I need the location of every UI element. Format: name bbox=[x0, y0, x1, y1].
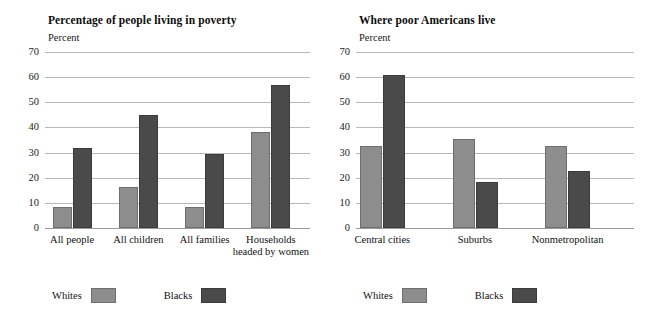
page-title: Percentage of people living in poverty bbox=[48, 14, 237, 26]
y-axis-tick-label: 0 bbox=[15, 223, 39, 234]
y-axis-tick-label: 30 bbox=[15, 148, 39, 159]
y-axis-tick-label: 10 bbox=[326, 198, 350, 209]
bar-whites-0 bbox=[53, 207, 72, 228]
bar-whites-0 bbox=[360, 146, 382, 228]
legend-label-blacks-2: Blacks bbox=[475, 290, 504, 301]
bar-whites-2 bbox=[545, 146, 567, 228]
y-axis-tick-label: 40 bbox=[15, 122, 39, 133]
y-axis-unit-label: Percent bbox=[48, 32, 80, 43]
x-axis-tick-label: Nonmetropolitan bbox=[507, 234, 628, 246]
legend-swatch-whites-icon bbox=[91, 288, 116, 303]
y-axis-unit-label-2: Percent bbox=[359, 32, 391, 43]
legend-item-whites-2: Whites bbox=[363, 288, 427, 303]
y-axis-tick-label: 20 bbox=[15, 173, 39, 184]
bar-whites-1 bbox=[119, 187, 138, 228]
legend-item-blacks-2: Blacks bbox=[475, 288, 538, 303]
bar-whites-1 bbox=[453, 139, 475, 228]
legend-poverty: Whites Blacks bbox=[52, 288, 226, 303]
y-axis-tick-label: 20 bbox=[326, 173, 350, 184]
y-axis-tick-label: 60 bbox=[326, 72, 350, 83]
y-axis-tick-label: 70 bbox=[15, 47, 39, 58]
y-axis-tick-label: 40 bbox=[326, 122, 350, 133]
bar-whites-2 bbox=[185, 207, 204, 228]
gridline bbox=[45, 77, 310, 78]
y-axis-tick-label: 0 bbox=[326, 223, 350, 234]
legend-label-whites-2: Whites bbox=[363, 290, 393, 301]
bar-blacks-3 bbox=[271, 85, 290, 228]
y-axis-tick-label: 50 bbox=[326, 97, 350, 108]
legend-swatch-blacks-icon bbox=[201, 288, 226, 303]
plot-area-where-poor-live: 706050403020100Central citiesSuburbsNonm… bbox=[356, 52, 634, 228]
gridline bbox=[356, 52, 634, 53]
y-axis-tick-label: 60 bbox=[15, 72, 39, 83]
y-axis-tick-label: 30 bbox=[326, 148, 350, 159]
bar-whites-3 bbox=[251, 132, 270, 228]
figure-two-bar-charts: Percentage of people living in poverty P… bbox=[0, 0, 646, 329]
axis-baseline bbox=[356, 228, 634, 229]
legend-item-whites: Whites bbox=[52, 288, 116, 303]
gridline bbox=[45, 52, 310, 53]
bar-blacks-0 bbox=[73, 148, 92, 228]
bar-blacks-1 bbox=[139, 115, 158, 228]
x-axis-tick-label-line: Households bbox=[224, 234, 318, 246]
x-axis-tick-label-line: headed by women bbox=[224, 246, 318, 258]
legend-item-blacks: Blacks bbox=[164, 288, 227, 303]
legend-where-poor-live: Whites Blacks bbox=[363, 288, 537, 303]
plot-area-poverty: 706050403020100All peopleAll childrenAll… bbox=[45, 52, 310, 228]
chart-panel-where-poor-live: Where poor Americans live Percent 706050… bbox=[323, 0, 646, 329]
chart-panel-poverty: Percentage of people living in poverty P… bbox=[0, 0, 323, 329]
x-axis-tick-label: Householdsheaded by women bbox=[224, 234, 318, 259]
y-axis-tick-label: 70 bbox=[326, 47, 350, 58]
gridline bbox=[45, 127, 310, 128]
x-axis-tick-label-line: Nonmetropolitan bbox=[507, 234, 628, 246]
page-title-2: Where poor Americans live bbox=[359, 14, 496, 26]
legend-swatch-blacks-icon-2 bbox=[512, 288, 537, 303]
legend-swatch-whites-icon-2 bbox=[402, 288, 427, 303]
gridline bbox=[45, 102, 310, 103]
bar-blacks-2 bbox=[568, 171, 590, 228]
y-axis-tick-label: 50 bbox=[15, 97, 39, 108]
legend-label-whites: Whites bbox=[52, 290, 82, 301]
axis-baseline bbox=[45, 228, 310, 229]
bar-blacks-2 bbox=[205, 154, 224, 228]
bar-blacks-1 bbox=[476, 182, 498, 228]
bar-blacks-0 bbox=[383, 75, 405, 228]
legend-label-blacks: Blacks bbox=[164, 290, 193, 301]
y-axis-tick-label: 10 bbox=[15, 198, 39, 209]
